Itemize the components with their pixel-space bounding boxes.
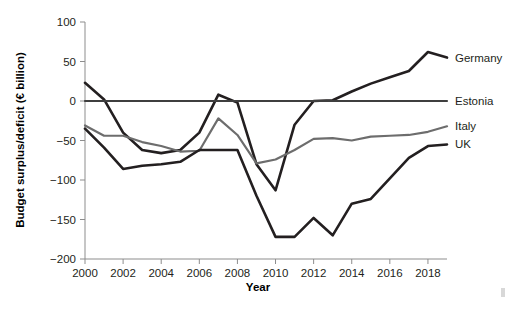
x-tick-label: 2002	[110, 267, 136, 279]
y-tick-label: −150	[50, 214, 76, 226]
y-tick-label: −50	[56, 135, 76, 147]
series-line-uk	[85, 129, 447, 237]
x-tick-label: 2006	[187, 267, 213, 279]
x-tick-label: 2012	[301, 267, 327, 279]
x-axis-title: Year	[246, 281, 271, 293]
y-tick-label: 0	[70, 95, 76, 107]
legend-label-uk: UK	[455, 138, 471, 150]
series-line-germany	[85, 52, 447, 190]
x-tick-label: 2004	[148, 267, 174, 279]
x-axis-ticks: 2000200220042006200820102012201420162018	[72, 259, 441, 279]
legend-label-italy: Italy	[455, 120, 476, 132]
chart-legend: GermanyEstoniaItalyUK	[455, 52, 503, 151]
series-line-italy	[85, 118, 447, 163]
x-tick-label: 2008	[225, 267, 251, 279]
legend-label-estonia: Estonia	[455, 95, 494, 107]
line-chart: −200−150−100−50050100 200020022004200620…	[0, 0, 516, 310]
y-tick-label: 100	[57, 16, 76, 28]
x-tick-label: 2014	[339, 267, 365, 279]
x-tick-label: 2016	[377, 267, 403, 279]
y-tick-label: 50	[63, 56, 76, 68]
x-tick-label: 2010	[263, 267, 289, 279]
legend-label-germany: Germany	[455, 52, 503, 64]
chart-container: −200−150−100−50050100 200020022004200620…	[0, 0, 516, 310]
corner-marker	[501, 288, 505, 297]
y-tick-label: −100	[50, 174, 76, 186]
x-tick-label: 2018	[415, 267, 441, 279]
y-tick-label: −200	[50, 253, 76, 265]
x-tick-label: 2000	[72, 267, 98, 279]
y-axis-title: Budget surplus/deficit (€ billion)	[14, 52, 26, 228]
series-lines	[85, 52, 447, 237]
y-axis-ticks: −200−150−100−50050100	[50, 16, 85, 265]
